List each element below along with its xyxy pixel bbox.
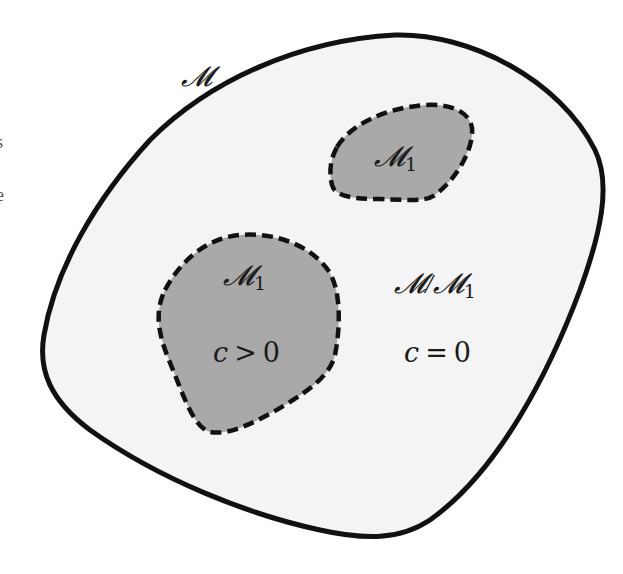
manifold-diagram: s e 𝓜 𝓜1 𝓜1 c>0 𝓜/𝓜1 c=0 xyxy=(0,0,623,574)
subset-large-condition: c>0 xyxy=(213,337,280,368)
complement-condition: c=0 xyxy=(404,337,471,368)
clipped-text-fragment: e xyxy=(0,185,4,205)
complement-label: 𝓜/𝓜1 xyxy=(394,268,476,302)
clipped-text-fragment: s xyxy=(0,132,3,152)
